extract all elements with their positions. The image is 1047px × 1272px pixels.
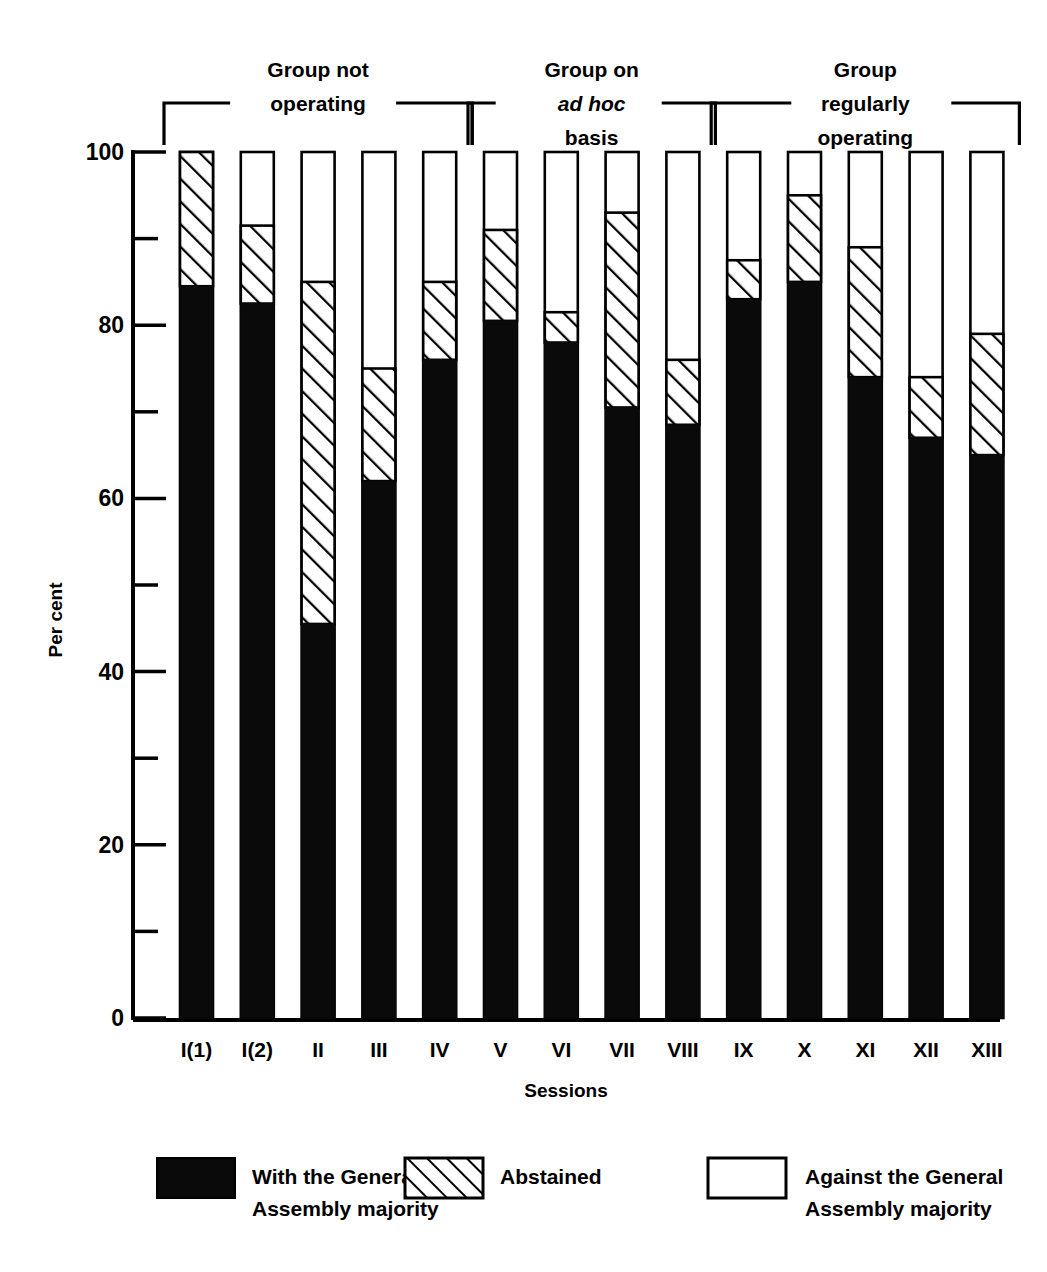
legend-label-line: Assembly majority [252, 1197, 439, 1220]
x-tick-label: V [493, 1038, 507, 1061]
x-tick-label: XI [855, 1038, 875, 1061]
bar-segment-with-majority [484, 321, 517, 1018]
y-tick-label: 0 [111, 1005, 124, 1031]
bar-segment-with-majority [362, 481, 395, 1018]
y-tick-label: 40 [98, 659, 124, 685]
y-tick-label: 20 [98, 832, 124, 858]
bar-segment-abstained [241, 226, 274, 304]
bar-column [180, 152, 213, 1018]
legend-label-line: With the General [252, 1165, 419, 1188]
bar-segment-abstained [302, 282, 335, 624]
stacked-bar-chart: Group notoperatingGroup onad hocbasisGro… [0, 0, 1047, 1272]
x-tick-label: IV [430, 1038, 450, 1061]
chart-figure: Group notoperatingGroup onad hocbasisGro… [0, 0, 1047, 1272]
x-tick-label: VII [609, 1038, 635, 1061]
bar-segment-with-majority [727, 299, 760, 1018]
bar-segment-with-majority [180, 286, 213, 1018]
bar-column [545, 152, 578, 1018]
legend-swatch-white-open [708, 1158, 786, 1198]
bar-segment-abstained [910, 377, 943, 438]
bar-segment-abstained [423, 282, 456, 360]
group-label-line: regularly [821, 92, 910, 115]
legend-label-line: Abstained [500, 1165, 602, 1188]
group-label-line: basis [565, 126, 619, 149]
group-label-line: Group [834, 58, 897, 81]
y-tick-label: 100 [86, 139, 124, 165]
bar-column [362, 152, 395, 1018]
x-tick-label: X [797, 1038, 811, 1061]
bar-segment-with-majority [970, 455, 1003, 1018]
group-label-line: operating [817, 126, 913, 149]
bar-segment-abstained [727, 260, 760, 299]
bar-column [423, 152, 456, 1018]
bar-segment-abstained [484, 230, 517, 321]
legend-label-line: Assembly majority [805, 1197, 992, 1220]
bar-segment-with-majority [606, 407, 639, 1018]
bar-segment-abstained [849, 247, 882, 377]
bar-segment-with-majority [666, 425, 699, 1018]
legend-label-line: Against the General [805, 1165, 1003, 1188]
y-tick-label: 60 [98, 485, 124, 511]
bar-column [241, 152, 274, 1018]
group-label-line: ad hoc [558, 92, 626, 115]
bar-segment-with-majority [241, 304, 274, 1018]
bar-segment-abstained [606, 213, 639, 408]
group-label-line: Group not [267, 58, 368, 81]
bar-segment-abstained [362, 369, 395, 482]
x-tick-label: VI [551, 1038, 571, 1061]
bar-column [302, 152, 335, 1018]
y-axis-title: Per cent [45, 582, 66, 658]
x-tick-label: XII [913, 1038, 939, 1061]
x-tick-label: II [312, 1038, 324, 1061]
bar-segment-abstained [970, 334, 1003, 455]
x-axis-title: Sessions [524, 1080, 607, 1101]
bar-column [910, 152, 943, 1018]
bar-column [970, 152, 1003, 1018]
x-tick-label: XIII [971, 1038, 1003, 1061]
group-label-line: operating [270, 92, 366, 115]
bar-segment-abstained [545, 312, 578, 342]
legend-swatch-solid-black [157, 1158, 235, 1198]
x-tick-label: I(1) [181, 1038, 213, 1061]
bar-column [849, 152, 882, 1018]
bar-segment-abstained [180, 152, 213, 286]
bar-segment-with-majority [302, 624, 335, 1018]
bar-column [727, 152, 760, 1018]
bar-column [484, 152, 517, 1018]
bar-segment-abstained [666, 360, 699, 425]
bar-segment-with-majority [545, 343, 578, 1018]
bar-segment-with-majority [849, 377, 882, 1018]
y-tick-label: 80 [98, 312, 124, 338]
bar-column [666, 152, 699, 1018]
bar-column [788, 152, 821, 1018]
bar-segment-with-majority [788, 282, 821, 1018]
group-label-line: Group on [544, 58, 638, 81]
bar-segment-abstained [788, 195, 821, 282]
bar-segment-with-majority [423, 360, 456, 1018]
x-tick-label: III [370, 1038, 388, 1061]
x-tick-label: IX [734, 1038, 754, 1061]
x-tick-label: VIII [667, 1038, 699, 1061]
bar-column [606, 152, 639, 1018]
bar-segment-with-majority [910, 438, 943, 1018]
x-tick-label: I(2) [242, 1038, 274, 1061]
legend-swatch-diagonal-hatch [405, 1158, 483, 1198]
